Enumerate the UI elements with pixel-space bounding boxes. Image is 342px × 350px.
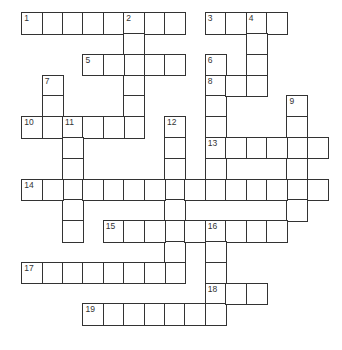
crossword-cell[interactable] [82, 116, 104, 138]
crossword-cell[interactable] [286, 137, 308, 159]
crossword-cell[interactable] [164, 262, 186, 284]
crossword-cell[interactable]: 16 [205, 220, 227, 242]
crossword-cell[interactable] [103, 179, 125, 201]
crossword-cell[interactable] [42, 116, 64, 138]
crossword-cell[interactable] [123, 95, 145, 117]
crossword-cell[interactable] [103, 116, 125, 138]
crossword-cell[interactable] [123, 54, 145, 76]
crossword-cell[interactable] [246, 54, 268, 76]
crossword-cell[interactable]: 9 [286, 95, 308, 117]
crossword-cell[interactable] [307, 179, 329, 201]
crossword-cell[interactable] [103, 262, 125, 284]
crossword-cell[interactable]: 17 [21, 262, 43, 284]
crossword-cell[interactable] [144, 262, 166, 284]
crossword-cell[interactable] [62, 137, 84, 159]
crossword-cell[interactable] [225, 179, 247, 201]
crossword-cell[interactable] [184, 220, 206, 242]
crossword-cell[interactable]: 4 [246, 12, 268, 34]
crossword-cell[interactable] [123, 220, 145, 242]
crossword-cell[interactable]: 15 [103, 220, 125, 242]
crossword-cell[interactable] [103, 303, 125, 325]
crossword-cell[interactable] [123, 179, 145, 201]
crossword-cell[interactable] [246, 137, 268, 159]
crossword-cell[interactable] [205, 179, 227, 201]
crossword-cell[interactable] [144, 179, 166, 201]
crossword-cell[interactable] [184, 303, 206, 325]
crossword-cell[interactable] [286, 199, 308, 221]
crossword-cell[interactable]: 19 [82, 303, 104, 325]
crossword-cell[interactable]: 6 [205, 54, 227, 76]
crossword-cell[interactable]: 12 [164, 116, 186, 138]
crossword-cell[interactable] [164, 179, 186, 201]
crossword-cell[interactable] [266, 137, 288, 159]
crossword-cell[interactable]: 8 [205, 75, 227, 97]
crossword-cell[interactable] [164, 220, 186, 242]
crossword-cell[interactable]: 11 [62, 116, 84, 138]
crossword-cell[interactable]: 1 [21, 12, 43, 34]
crossword-cell[interactable] [82, 262, 104, 284]
crossword-cell[interactable]: 3 [205, 12, 227, 34]
crossword-cell[interactable] [164, 137, 186, 159]
crossword-cell[interactable] [164, 12, 186, 34]
crossword-cell[interactable] [205, 95, 227, 117]
crossword-cell[interactable] [103, 12, 125, 34]
crossword-cell[interactable] [82, 179, 104, 201]
crossword-cell[interactable] [246, 283, 268, 305]
crossword-cell[interactable] [184, 179, 206, 201]
crossword-cell[interactable] [246, 179, 268, 201]
crossword-cell[interactable] [266, 179, 288, 201]
crossword-cell[interactable] [205, 241, 227, 263]
crossword-cell[interactable] [144, 303, 166, 325]
crossword-cell[interactable] [286, 179, 308, 201]
crossword-cell[interactable] [225, 220, 247, 242]
crossword-cell[interactable] [266, 220, 288, 242]
crossword-cell[interactable] [286, 158, 308, 180]
crossword-cell[interactable] [205, 262, 227, 284]
crossword-cell[interactable]: 18 [205, 283, 227, 305]
crossword-cell[interactable]: 5 [82, 54, 104, 76]
crossword-cell[interactable] [205, 116, 227, 138]
crossword-cell[interactable] [246, 220, 268, 242]
crossword-cell[interactable]: 14 [21, 179, 43, 201]
crossword-cell[interactable] [307, 137, 329, 159]
crossword-cell[interactable] [42, 179, 64, 201]
crossword-cell[interactable] [246, 33, 268, 55]
crossword-cell[interactable] [123, 116, 145, 138]
crossword-cell[interactable] [225, 12, 247, 34]
crossword-cell[interactable] [144, 54, 166, 76]
crossword-cell[interactable] [123, 262, 145, 284]
crossword-cell[interactable] [144, 12, 166, 34]
crossword-cell[interactable]: 2 [123, 12, 145, 34]
crossword-cell[interactable] [225, 283, 247, 305]
crossword-cell[interactable] [62, 179, 84, 201]
crossword-cell[interactable] [123, 75, 145, 97]
crossword-cell[interactable] [62, 262, 84, 284]
crossword-cell[interactable] [144, 220, 166, 242]
crossword-cell[interactable] [225, 137, 247, 159]
crossword-cell[interactable] [123, 303, 145, 325]
crossword-cell[interactable] [164, 199, 186, 221]
crossword-cell[interactable] [246, 75, 268, 97]
crossword-cell[interactable] [225, 75, 247, 97]
crossword-cell[interactable] [164, 54, 186, 76]
crossword-cell[interactable] [62, 220, 84, 242]
crossword-cell[interactable] [42, 12, 64, 34]
crossword-cell[interactable] [286, 116, 308, 138]
crossword-cell[interactable] [205, 158, 227, 180]
crossword-cell[interactable] [42, 262, 64, 284]
crossword-cell[interactable] [123, 33, 145, 55]
crossword-cell[interactable] [266, 12, 288, 34]
crossword-cell[interactable] [103, 54, 125, 76]
crossword-cell[interactable] [164, 241, 186, 263]
crossword-cell[interactable]: 7 [42, 75, 64, 97]
crossword-cell[interactable] [62, 12, 84, 34]
crossword-cell[interactable] [62, 199, 84, 221]
crossword-cell[interactable] [62, 158, 84, 180]
crossword-cell[interactable] [164, 303, 186, 325]
crossword-cell[interactable]: 13 [205, 137, 227, 159]
crossword-cell[interactable] [42, 95, 64, 117]
crossword-cell[interactable] [205, 303, 227, 325]
crossword-cell[interactable]: 10 [21, 116, 43, 138]
crossword-cell[interactable] [164, 158, 186, 180]
crossword-cell[interactable] [82, 12, 104, 34]
